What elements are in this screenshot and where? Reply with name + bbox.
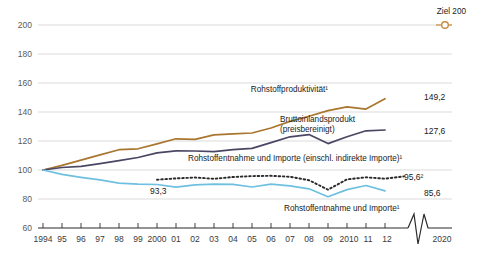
y-tick-label: 140 — [18, 107, 32, 117]
x-tick-label: 01 — [171, 234, 181, 244]
y-tick-label: 100 — [18, 165, 32, 175]
x-tick-label: 07 — [285, 234, 295, 244]
x-tick-label: 03 — [209, 234, 219, 244]
value-label-rohstoffproduktivitaet: 149,2 — [424, 92, 446, 102]
value-labels: 149,2 127,6 95,6² 85,6 93,3 — [150, 92, 446, 198]
series-line-entnahme — [43, 170, 385, 197]
target-marker-group: Ziel 200 — [436, 7, 466, 28]
annotation-entnahme-indirekt: Rohstoffentnahme und Importe (einschl. i… — [188, 154, 402, 163]
x-tick-label: 05 — [247, 234, 257, 244]
x-tick-label: 1994 — [34, 234, 53, 244]
resource-productivity-line-chart: 200 180 160 140 120 100 80 60 — [0, 0, 480, 262]
x-tickmarks — [43, 223, 385, 228]
value-label-entnahme-indirekt: 95,6² — [404, 172, 424, 182]
x-tick-label: 08 — [304, 234, 314, 244]
value-label-entnahme: 85,6 — [424, 188, 441, 198]
x-axis-labels: 1994 95 96 97 98 99 2000 01 02 03 04 05 … — [34, 234, 452, 244]
x-axis: 1994 95 96 97 98 99 2000 01 02 03 04 05 … — [34, 214, 452, 244]
x-tick-label: 95 — [57, 234, 67, 244]
gridlines — [38, 25, 452, 199]
value-label-bruttoinlandsprodukt: 127,6 — [424, 126, 446, 136]
y-tick-label: 180 — [18, 49, 32, 59]
x-tick-label: 02 — [190, 234, 200, 244]
x-tick-label: 2000 — [148, 234, 167, 244]
series-line-entnahme-indirekt — [157, 176, 404, 190]
x-tick-label: 98 — [114, 234, 124, 244]
annotation-bip-line1: Bruttoinlandsprodukt — [280, 115, 356, 124]
x-tick-label: 06 — [266, 234, 276, 244]
x-tick-label: 97 — [95, 234, 105, 244]
y-tick-label: 80 — [23, 194, 33, 204]
x-tick-label: 11 — [364, 234, 373, 244]
y-axis-labels: 200 180 160 140 120 100 80 60 — [18, 20, 32, 233]
x-tick-label: 99 — [133, 234, 143, 244]
series-annotations: Rohstoffproduktivität¹ Bruttoinlandsprod… — [188, 85, 402, 213]
series-lines — [43, 99, 404, 197]
x-tick-label: 04 — [228, 234, 238, 244]
x-tick-label: 09 — [323, 234, 333, 244]
x-tick-label-2020: 2020 — [433, 234, 452, 244]
x-tick-label: 96 — [76, 234, 86, 244]
y-tick-label: 120 — [18, 136, 32, 146]
annotation-entnahme: Rohstoffentnahme und Importe¹ — [284, 204, 400, 213]
y-tick-label: 200 — [18, 20, 32, 30]
y-tick-label: 160 — [18, 78, 32, 88]
annotation-rohstoffproduktivitaet: Rohstoffproduktivität¹ — [251, 85, 328, 94]
target-label: Ziel 200 — [437, 7, 467, 16]
x-tick-label: 12 — [382, 234, 392, 244]
chart-container: 200 180 160 140 120 100 80 60 — [0, 0, 480, 262]
x-tick-label: 2010 — [340, 234, 359, 244]
annotation-bip-line2: (preisbereinigt) — [280, 125, 335, 134]
target-circle-icon — [442, 22, 449, 29]
series-line-bruttoinlandsprodukt — [43, 130, 385, 170]
y-tick-label: 60 — [23, 223, 33, 233]
value-label-933: 93,3 — [150, 186, 167, 196]
